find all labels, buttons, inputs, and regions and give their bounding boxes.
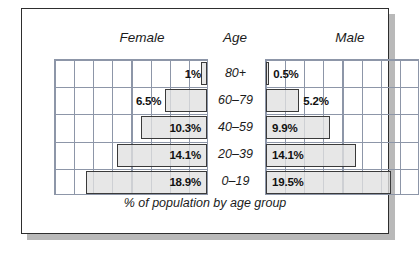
- bar-label-female-60-79: 6.5%: [136, 95, 161, 107]
- bar-label-female-20-39: 14.1%: [169, 149, 201, 161]
- age-label-80plus: 80+: [208, 59, 263, 86]
- age-label-60-79: 60–79: [208, 86, 263, 113]
- bar-male-60-79[interactable]: 5.2%: [266, 89, 299, 112]
- age-label-column: 80+ 60–79 40–59 20–39 0–19: [208, 59, 263, 195]
- chart-caption: % of population by age group: [21, 196, 389, 210]
- bar-row-female-3: 14.1%: [55, 142, 207, 169]
- age-label-40-59: 40–59: [208, 113, 263, 140]
- bar-female-20-39[interactable]: 14.1%: [117, 144, 207, 167]
- bar-female-80plus[interactable]: 1%: [201, 62, 207, 85]
- column-header-male: Male: [290, 30, 410, 45]
- column-header-age: Age: [205, 30, 265, 45]
- bar-row-female-4: 18.9%: [55, 169, 207, 196]
- plot-area-female: 1% 6.5% 10.3% 14.1% 18.9%: [54, 59, 208, 195]
- bar-row-male-1: 5.2%: [266, 87, 418, 114]
- bar-row-female-1: 6.5%: [55, 87, 207, 114]
- bar-male-80plus[interactable]: 0.5%: [266, 62, 269, 85]
- bar-label-male-20-39: 14.1%: [272, 149, 304, 161]
- bar-row-male-0: 0.5%: [266, 60, 418, 87]
- bar-label-female-40-59: 10.3%: [169, 122, 201, 134]
- bar-male-40-59[interactable]: 9.9%: [266, 116, 330, 139]
- bar-row-male-3: 14.1%: [266, 142, 418, 169]
- bar-female-60-79[interactable]: 6.5%: [165, 89, 207, 112]
- age-label-0-19: 0–19: [208, 168, 263, 195]
- plot-area-male: 0.5% 5.2% 9.9% 14.1% 19.5%: [265, 59, 419, 195]
- bar-row-female-0: 1%: [55, 60, 207, 87]
- bar-row-female-2: 10.3%: [55, 114, 207, 141]
- bar-label-male-60-79: 5.2%: [303, 95, 328, 107]
- bar-label-female-80plus: 1%: [185, 68, 201, 80]
- bar-row-male-4: 19.5%: [266, 169, 418, 196]
- bar-male-0-19[interactable]: 19.5%: [266, 171, 391, 194]
- age-label-20-39: 20–39: [208, 141, 263, 168]
- bar-row-male-2: 9.9%: [266, 114, 418, 141]
- bar-female-40-59[interactable]: 10.3%: [141, 116, 207, 139]
- bar-label-male-80plus: 0.5%: [273, 68, 298, 80]
- bar-label-male-0-19: 19.5%: [272, 176, 304, 188]
- bar-male-20-39[interactable]: 14.1%: [266, 144, 356, 167]
- column-header-female: Female: [82, 30, 202, 45]
- bar-label-male-40-59: 9.9%: [272, 122, 297, 134]
- bar-label-female-0-19: 18.9%: [169, 176, 201, 188]
- bar-female-0-19[interactable]: 18.9%: [86, 171, 207, 194]
